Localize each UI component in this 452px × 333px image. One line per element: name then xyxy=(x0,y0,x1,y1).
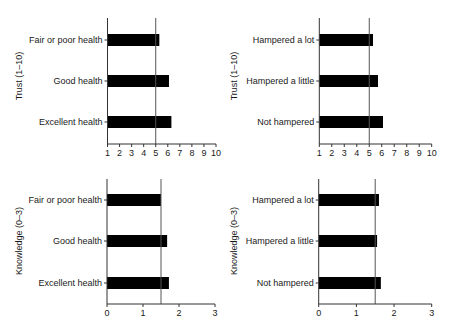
category-label: Good health xyxy=(53,236,102,246)
x-tick-label: 5 xyxy=(153,148,158,158)
x-tick-label: 2 xyxy=(176,308,181,318)
bar-excellent-health xyxy=(108,116,172,128)
category-label: Excellent health xyxy=(38,278,102,288)
x-tick-label: 9 xyxy=(417,148,422,158)
panel-knowledge-by-hampered: Hampered a lotHampered a littleNot hampe… xyxy=(229,179,434,318)
x-tick-label: 1 xyxy=(354,308,359,318)
category-label: Fair or poor health xyxy=(28,195,102,205)
category-label: Hampered a little xyxy=(246,236,314,246)
x-tick-label: 2 xyxy=(117,148,122,158)
x-tick-label: 8 xyxy=(404,148,409,158)
x-tick-label: 6 xyxy=(379,148,384,158)
category-label: Hampered a little xyxy=(246,76,314,86)
category-label: Good health xyxy=(53,76,102,86)
category-label: Hampered a lot xyxy=(253,35,315,45)
y-axis-title: Knowledge (0–3) xyxy=(14,207,24,275)
x-tick-label: 9 xyxy=(201,148,206,158)
x-tick-label: 4 xyxy=(141,148,146,158)
bar-hampered-a-lot xyxy=(319,34,373,46)
category-label: Excellent health xyxy=(39,117,103,127)
bar-hampered-a-lot xyxy=(319,194,379,206)
category-label: Fair or poor health xyxy=(29,35,103,45)
panel-trust-by-health: Fair or poor healthGood healthExcellent … xyxy=(14,18,221,158)
x-tick-label: 7 xyxy=(177,148,182,158)
bar-not-hampered xyxy=(319,116,383,128)
bar-fair-or-poor-health xyxy=(107,194,161,206)
x-tick-label: 1 xyxy=(317,148,322,158)
x-tick-label: 10 xyxy=(427,148,437,158)
category-label: Hampered a lot xyxy=(252,195,314,205)
y-axis-title: Trust (1–10) xyxy=(229,52,239,101)
x-tick-label: 3 xyxy=(429,308,434,318)
x-tick-label: 2 xyxy=(329,148,334,158)
bar-good-health xyxy=(108,75,169,87)
bar-excellent-health xyxy=(107,277,169,289)
x-tick-label: 7 xyxy=(392,148,397,158)
x-tick-label: 6 xyxy=(165,148,170,158)
bar-fair-or-poor-health xyxy=(108,34,160,46)
chart-figure: Fair or poor healthGood healthExcellent … xyxy=(0,0,452,333)
bar-hampered-a-little xyxy=(319,235,377,247)
x-tick-label: 0 xyxy=(104,308,109,318)
panel-trust-by-hampered: Hampered a lotHampered a littleNot hampe… xyxy=(229,18,437,158)
category-label: Not hampered xyxy=(257,278,314,288)
x-tick-label: 0 xyxy=(316,308,321,318)
x-tick-label: 10 xyxy=(211,148,221,158)
x-tick-label: 1 xyxy=(105,148,110,158)
y-axis-title: Trust (1–10) xyxy=(14,52,24,101)
x-tick-label: 8 xyxy=(189,148,194,158)
x-tick-label: 2 xyxy=(392,308,397,318)
x-tick-label: 3 xyxy=(212,308,217,318)
x-tick-label: 3 xyxy=(129,148,134,158)
x-tick-label: 4 xyxy=(354,148,359,158)
category-label: Not hampered xyxy=(257,117,314,127)
x-tick-label: 5 xyxy=(367,148,372,158)
bar-not-hampered xyxy=(319,277,381,289)
panel-knowledge-by-health: Fair or poor healthGood healthExcellent … xyxy=(14,179,218,318)
x-tick-label: 3 xyxy=(342,148,347,158)
x-tick-label: 1 xyxy=(140,308,145,318)
bar-good-health xyxy=(107,235,167,247)
y-axis-title: Knowledge (0–3) xyxy=(229,207,239,275)
